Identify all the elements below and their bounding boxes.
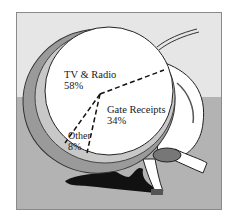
slice-value: 8% bbox=[68, 141, 91, 152]
slice-name: Gate Receipts bbox=[107, 104, 166, 115]
figure-shoe bbox=[151, 189, 163, 195]
slice-label-tv-radio: TV & Radio 58% bbox=[64, 69, 116, 91]
slice-value: 58% bbox=[64, 80, 116, 91]
slice-label-gate-receipts: Gate Receipts 34% bbox=[107, 104, 166, 126]
slice-value: 34% bbox=[107, 115, 166, 126]
chart-illustration-frame: TV & Radio 58% Gate Receipts 34% Other 8… bbox=[16, 12, 222, 210]
slice-label-other: Other 8% bbox=[68, 130, 91, 152]
figure-hand bbox=[153, 148, 181, 162]
slice-name: Other bbox=[68, 130, 91, 141]
slice-name: TV & Radio bbox=[64, 69, 116, 80]
